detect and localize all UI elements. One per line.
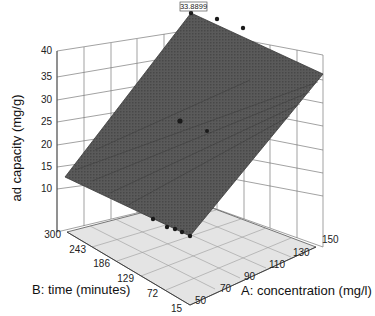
svg-text:35: 35: [41, 71, 53, 82]
b-axis-label: B: time (minutes): [32, 282, 130, 297]
svg-text:30: 30: [41, 94, 53, 105]
svg-text:243: 243: [69, 244, 86, 255]
svg-text:20: 20: [41, 139, 53, 150]
svg-text:150: 150: [322, 234, 339, 245]
max-value-flag: 33.8899: [180, 2, 207, 13]
flag-value: 33.8899: [180, 2, 207, 11]
svg-text:50: 50: [195, 295, 207, 306]
svg-text:10: 10: [41, 183, 53, 194]
svg-text:72: 72: [147, 288, 159, 299]
svg-text:40: 40: [41, 45, 53, 56]
svg-text:15: 15: [171, 303, 183, 314]
a-axis-label: A: concentration (mg/l): [241, 283, 372, 298]
z-axis: 10 15 20 25 30 35 40 ad capacity (mg/g): [9, 45, 57, 232]
surface-plot: 33.8899 10 15 20 25 30 35 40 ad capacity…: [0, 0, 375, 316]
svg-text:25: 25: [41, 116, 53, 127]
svg-text:300: 300: [44, 229, 61, 240]
z-axis-label: ad capacity (mg/g): [9, 95, 24, 202]
svg-text:90: 90: [244, 271, 256, 282]
svg-text:110: 110: [269, 259, 285, 270]
svg-text:70: 70: [220, 283, 232, 294]
svg-text:15: 15: [41, 161, 53, 172]
svg-text:130: 130: [293, 247, 310, 258]
svg-text:186: 186: [93, 258, 110, 269]
